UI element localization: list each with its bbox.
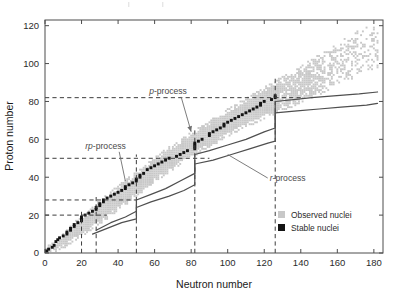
- observed-nucleus-cell: [236, 104, 238, 106]
- observed-nucleus-cell: [64, 241, 66, 243]
- observed-nucleus-cell: [351, 78, 353, 80]
- observed-nucleus-cell: [172, 155, 174, 157]
- observed-nucleus-cell: [249, 123, 251, 125]
- observed-nucleus-cell: [115, 188, 117, 190]
- observed-nucleus-cell: [135, 188, 137, 190]
- observed-nucleus-cell: [371, 34, 373, 36]
- observed-nucleus-cell: [291, 76, 293, 78]
- observed-nucleus-cell: [130, 188, 132, 190]
- observed-nucleus-cell: [185, 146, 187, 148]
- observed-nucleus-cell: [75, 233, 77, 235]
- observed-nucleus-cell: [115, 208, 117, 210]
- observed-nucleus-cell: [322, 63, 324, 65]
- observed-nucleus-cell: [377, 65, 379, 67]
- observed-nucleus-cell: [207, 142, 209, 144]
- observed-nucleus-cell: [172, 150, 174, 152]
- observed-nucleus-cell: [291, 74, 293, 76]
- observed-nucleus-cell: [267, 110, 269, 112]
- observed-nucleus-cell: [132, 188, 134, 190]
- observed-nucleus-cell: [216, 142, 218, 144]
- observed-nucleus-cell: [351, 63, 353, 65]
- observed-nucleus-cell: [373, 38, 375, 40]
- observed-nucleus-cell: [99, 208, 101, 210]
- observed-nucleus-cell: [190, 137, 192, 139]
- observed-nucleus-cell: [234, 131, 236, 133]
- observed-nucleus-cell: [212, 125, 214, 127]
- observed-nucleus-cell: [219, 138, 221, 140]
- observed-nucleus-cell: [252, 99, 254, 101]
- observed-nucleus-cell: [271, 83, 273, 85]
- observed-nucleus-cell: [272, 114, 274, 116]
- observed-nucleus-cell: [329, 63, 331, 65]
- observed-nucleus-cell: [377, 49, 379, 51]
- observed-nucleus-cell: [230, 125, 232, 127]
- observed-nucleus-cell: [236, 131, 238, 133]
- observed-nucleus-cell: [278, 106, 280, 108]
- observed-nucleus-cell: [70, 235, 72, 237]
- observed-nucleus-cell: [276, 87, 278, 89]
- observed-nucleus-cell: [313, 80, 315, 82]
- observed-nucleus-cell: [73, 229, 75, 231]
- observed-nucleus-cell: [168, 150, 170, 152]
- observed-nucleus-cell: [278, 87, 280, 89]
- observed-nucleus-cell: [141, 180, 143, 182]
- observed-nucleus-cell: [269, 93, 271, 95]
- observed-nucleus-cell: [203, 129, 205, 131]
- observed-nucleus-cell: [298, 95, 300, 97]
- observed-nucleus-cell: [199, 144, 201, 146]
- observed-nucleus-cell: [307, 82, 309, 84]
- observed-nucleus-cell: [143, 182, 145, 184]
- observed-nucleus-cell: [283, 108, 285, 110]
- observed-nucleus-cell: [145, 182, 147, 184]
- observed-nucleus-cell: [60, 243, 62, 245]
- legend-label-stable: Stable nuclei: [291, 223, 339, 233]
- observed-nucleus-cell: [283, 83, 285, 85]
- observed-nucleus-cell: [115, 203, 117, 205]
- observed-nucleus-cell: [256, 91, 258, 93]
- observed-nucleus-cell: [187, 144, 189, 146]
- observed-nucleus-cell: [367, 68, 369, 70]
- observed-nucleus-cell: [364, 46, 366, 48]
- observed-nucleus-cell: [331, 65, 333, 67]
- observed-nucleus-cell: [322, 70, 324, 72]
- observed-nucleus-cell: [260, 95, 262, 97]
- observed-nucleus-cell: [307, 72, 309, 74]
- observed-nucleus-cell: [145, 184, 147, 186]
- observed-nucleus-cell: [271, 89, 273, 91]
- observed-nucleus-cell: [267, 102, 269, 104]
- observed-nucleus-cell: [371, 46, 373, 48]
- observed-nucleus-cell: [230, 133, 232, 135]
- observed-nucleus-cell: [329, 72, 331, 74]
- observed-nucleus-cell: [177, 150, 179, 152]
- observed-nucleus-cell: [77, 227, 79, 229]
- observed-nucleus-cell: [245, 123, 247, 125]
- observed-nucleus-cell: [71, 233, 73, 235]
- observed-nucleus-cell: [166, 163, 168, 165]
- observed-nucleus-cell: [146, 176, 148, 178]
- observed-nucleus-cell: [79, 226, 81, 228]
- observed-nucleus-cell: [130, 193, 132, 195]
- observed-nucleus-cell: [177, 161, 179, 163]
- observed-nucleus-cell: [177, 165, 179, 167]
- observed-nucleus-cell: [355, 40, 357, 42]
- observed-nucleus-cell: [110, 205, 112, 207]
- observed-nucleus-cell: [307, 80, 309, 82]
- observed-nucleus-cell: [269, 112, 271, 114]
- observed-nucleus-cell: [108, 210, 110, 212]
- observed-nucleus-cell: [369, 34, 371, 36]
- observed-nucleus-cell: [225, 118, 227, 120]
- observed-nucleus-cell: [121, 182, 123, 184]
- observed-nucleus-cell: [278, 104, 280, 106]
- observed-nucleus-cell: [296, 78, 298, 80]
- observed-nucleus-cell: [282, 95, 284, 97]
- observed-nucleus-cell: [291, 91, 293, 93]
- observed-nucleus-cell: [152, 182, 154, 184]
- observed-nucleus-cell: [188, 140, 190, 142]
- observed-nucleus-cell: [77, 233, 79, 235]
- observed-nucleus-cell: [300, 85, 302, 87]
- observed-nucleus-cell: [240, 104, 242, 106]
- observed-nucleus-cell: [64, 239, 66, 241]
- observed-nucleus-cell: [311, 85, 313, 87]
- observed-nucleus-cell: [271, 108, 273, 110]
- observed-nucleus-cell: [221, 138, 223, 140]
